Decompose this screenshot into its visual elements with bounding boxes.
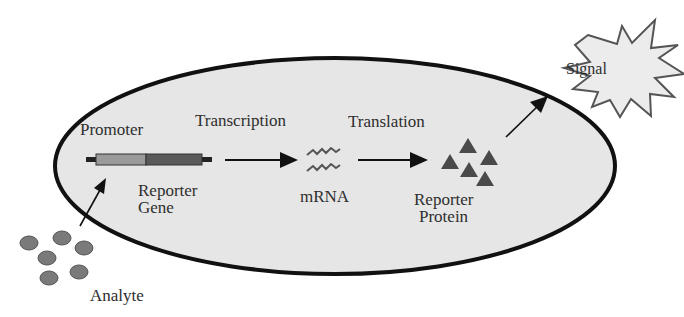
promoter-label: Promoter: [80, 121, 143, 139]
signal-label: Signal: [566, 60, 607, 78]
gene-construct: [86, 154, 212, 165]
translation-label: Translation: [348, 113, 425, 131]
reporter-protein-label-line2: Protein: [419, 208, 468, 226]
transcription-label: Transcription: [195, 112, 286, 130]
analyte-icon: [20, 231, 93, 285]
diagram-canvas: [0, 0, 684, 317]
analyte-label: Analyte: [90, 287, 144, 305]
mrna-label: mRNA: [300, 188, 349, 206]
reporter-gene-label-line2: Gene: [138, 199, 174, 217]
